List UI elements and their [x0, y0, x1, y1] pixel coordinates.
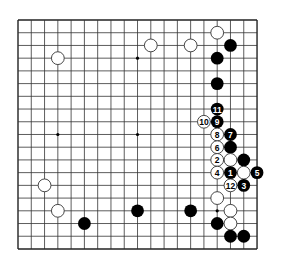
white-stone [184, 39, 197, 52]
white-stone-circle [224, 217, 237, 230]
white-stone [38, 179, 51, 192]
move-number-label: 4 [215, 168, 220, 178]
white-stone [211, 192, 224, 205]
black-stone-move-3: 3 [237, 179, 250, 192]
white-stone [144, 39, 157, 52]
white-stone-circle [51, 204, 64, 217]
move-number-label: 7 [228, 130, 233, 140]
move-number-label: 1 [228, 168, 233, 178]
star-point [136, 133, 139, 136]
black-stone [211, 77, 224, 90]
black-stone-circle [184, 204, 197, 217]
white-stone-circle [224, 154, 237, 167]
star-point [56, 133, 59, 136]
white-stone-move-8: 8 [211, 128, 224, 141]
white-stone [211, 26, 224, 39]
star-point [216, 209, 219, 212]
white-stone-move-10: 10 [198, 115, 211, 128]
move-number-label: 6 [215, 143, 220, 153]
black-stone-move-11: 11 [211, 103, 224, 116]
white-stone [224, 204, 237, 217]
black-stone [237, 230, 250, 243]
black-stone-circle [237, 154, 250, 167]
white-stone-circle [211, 192, 224, 205]
white-stone [224, 217, 237, 230]
black-stone [211, 217, 224, 230]
black-stone [131, 204, 144, 217]
white-stone-circle [224, 204, 237, 217]
move-number-label: 8 [215, 130, 220, 140]
black-stone-move-1: 1 [224, 166, 237, 179]
black-stone [224, 230, 237, 243]
black-stone-circle [78, 217, 91, 230]
black-stone-move-5: 5 [251, 166, 264, 179]
white-stone-move-12: 12 [224, 179, 237, 192]
move-number-label: 9 [215, 117, 220, 127]
black-stone-circle [224, 39, 237, 52]
white-stone-move-2: 2 [211, 154, 224, 167]
white-stone-circle [184, 39, 197, 52]
move-number-label: 2 [215, 155, 220, 165]
white-stone [224, 154, 237, 167]
star-point [136, 57, 139, 60]
white-stone-circle [237, 166, 250, 179]
black-stone [78, 217, 91, 230]
black-stone [224, 39, 237, 52]
black-stone-circle [237, 230, 250, 243]
white-stone-move-4: 4 [211, 166, 224, 179]
black-stone-circle [211, 77, 224, 90]
white-stone [51, 204, 64, 217]
move-number-label: 11 [213, 105, 222, 115]
black-stone-circle [211, 52, 224, 65]
move-number-label: 3 [241, 181, 246, 191]
white-stone-circle [211, 26, 224, 39]
black-stone-circle [211, 217, 224, 230]
go-board-diagram: 111098762415123 [0, 0, 281, 266]
black-stone-move-7: 7 [224, 128, 237, 141]
black-stone [237, 154, 250, 167]
black-stone-circle [224, 141, 237, 154]
black-stone [211, 52, 224, 65]
move-number-label: 5 [255, 168, 260, 178]
black-stone-move-9: 9 [211, 115, 224, 128]
black-stone [184, 204, 197, 217]
black-stone-circle [131, 204, 144, 217]
white-stone-move-6: 6 [211, 141, 224, 154]
black-stone-circle [224, 230, 237, 243]
move-number-label: 10 [199, 117, 209, 127]
black-stone [224, 141, 237, 154]
white-stone [237, 166, 250, 179]
white-stone-circle [38, 179, 51, 192]
white-stone-circle [144, 39, 157, 52]
move-number-label: 12 [226, 181, 236, 191]
white-stone-circle [51, 52, 64, 65]
white-stone [51, 52, 64, 65]
board-background [0, 0, 281, 266]
